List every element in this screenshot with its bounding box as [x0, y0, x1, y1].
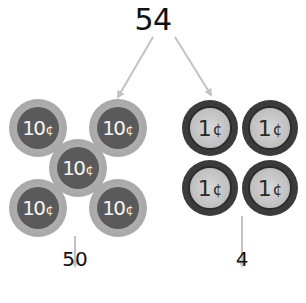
ten-cent-coin: 10¢: [9, 179, 67, 237]
ones-total-label: 4: [222, 247, 262, 271]
arrow-to-ones: [175, 37, 211, 95]
cent-symbol-icon: ¢: [126, 202, 134, 217]
arrow-to-tens: [118, 37, 153, 97]
cent-symbol-icon: ¢: [126, 122, 134, 137]
cent-symbol-icon: ¢: [46, 202, 54, 217]
cent-symbol-icon: ¢: [273, 181, 283, 199]
total-number: 54: [0, 2, 306, 37]
one-cent-coin: 1¢: [242, 160, 298, 216]
cent-symbol-icon: ¢: [86, 162, 94, 177]
cent-symbol-icon: ¢: [46, 122, 54, 137]
ten-cent-coin: 10¢: [89, 179, 147, 237]
one-cent-coin: 1¢: [182, 100, 238, 156]
one-cent-coin: 1¢: [242, 100, 298, 156]
cent-symbol-icon: ¢: [213, 181, 223, 199]
one-cent-coin: 1¢: [182, 160, 238, 216]
tens-total-label: 50: [55, 247, 95, 271]
cent-symbol-icon: ¢: [273, 121, 283, 139]
cent-symbol-icon: ¢: [213, 121, 223, 139]
